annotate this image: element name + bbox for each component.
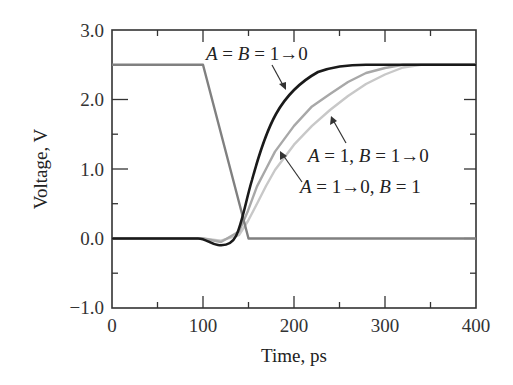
x-axis-label: Time, ps	[261, 345, 327, 366]
annotation-a1-b-falling: A = 1, B = 1→0	[306, 145, 429, 166]
y-axis-label: Voltage, V	[30, 128, 51, 209]
plot-frame	[112, 30, 476, 308]
arrow-head-icon	[330, 116, 337, 125]
annotation-a-falling-b1: A = 1→0, B = 1	[298, 176, 421, 197]
y-tick-label: 3.0	[80, 20, 104, 41]
annotation-a-b-falling: A = B = 1→0	[204, 43, 308, 64]
x-tick-label: 200	[280, 315, 309, 336]
y-tick-label: 2.0	[80, 89, 104, 110]
y-ticks	[112, 65, 476, 274]
x-tick-label: 400	[462, 315, 491, 336]
y-tick-label: 0.0	[80, 228, 104, 249]
arrow-head-icon	[279, 82, 286, 90]
x-tick-label: 300	[371, 315, 400, 336]
x-tick-label: 100	[189, 315, 218, 336]
arrow-line	[333, 120, 346, 143]
y-tick-label: −1.0	[70, 297, 104, 318]
x-tick-label: 0	[107, 315, 117, 336]
y-tick-label: 1.0	[80, 159, 104, 180]
arrow-line	[283, 155, 302, 182]
voltage-time-chart: 3.0 2.0 1.0 0.0 −1.0 0 100 200 300 400 T…	[0, 0, 513, 385]
